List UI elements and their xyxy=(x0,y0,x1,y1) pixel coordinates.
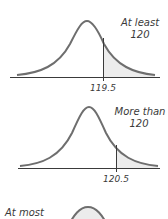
normal-curve-diagram: At least 120 119.5 More than 120 120.5 A… xyxy=(0,0,168,219)
panel-at-least: At least 120 119.5 xyxy=(10,17,160,93)
panel-label-line1: At least xyxy=(120,17,160,28)
panel-label-line2: 120 xyxy=(130,29,149,40)
panel-more-than: More than 120 120.5 xyxy=(18,106,165,184)
panel-label-line2: 120 xyxy=(129,118,148,129)
panel-label-line1: More than xyxy=(115,106,166,117)
panel-at-most: At most xyxy=(4,207,110,219)
panel-label-line1: At most xyxy=(4,207,45,218)
cutoff-value: 120.5 xyxy=(103,174,129,184)
cutoff-value: 119.5 xyxy=(90,83,116,93)
